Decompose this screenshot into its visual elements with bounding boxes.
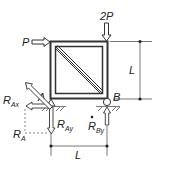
- height-dim-label: L: [129, 64, 135, 76]
- load-p-label: P: [22, 36, 30, 48]
- support-b-roller: [103, 98, 110, 105]
- diagonal-member: [55, 46, 103, 94]
- width-dot-right: [105, 144, 108, 147]
- dim-dot-top: [138, 40, 141, 43]
- reaction-by-arrow: [104, 107, 111, 125]
- width-dim-label: L: [75, 149, 81, 161]
- width-dot-left: [49, 144, 52, 147]
- reaction-a-construction: [25, 109, 49, 133]
- support-b-label: B: [113, 91, 120, 103]
- load-p-arrow: [32, 38, 50, 47]
- reaction-a-label: RA: [13, 128, 26, 142]
- reaction-ax-label: RAx: [3, 94, 20, 108]
- reaction-ay-label: RAy: [57, 118, 74, 133]
- reaction-by-dot: [91, 116, 94, 119]
- load-2p-arrow: [102, 23, 111, 41]
- dim-dot-bottom: [138, 97, 141, 100]
- reaction-by-label: RBy: [88, 120, 105, 135]
- diagram-canvas: P 2P L A RAx RAy RA B: [0, 0, 184, 172]
- reaction-ay-arrow: [48, 107, 56, 134]
- load-2p-label: 2P: [99, 10, 114, 22]
